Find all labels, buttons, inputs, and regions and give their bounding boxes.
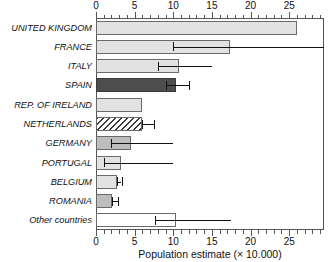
category-label: SPAIN xyxy=(0,80,92,90)
error-bar-cap xyxy=(173,42,174,51)
category-label: PORTUGAL xyxy=(0,158,92,168)
x-tick-label: 5 xyxy=(132,236,138,248)
x-tick-label: 20 xyxy=(245,236,256,248)
x-tick-minor xyxy=(142,230,143,234)
error-bar-line xyxy=(155,220,232,221)
x-tick-label: 5 xyxy=(132,0,138,12)
category-label: Other countries xyxy=(0,215,92,225)
bar xyxy=(96,117,142,131)
error-bar-line xyxy=(173,47,324,48)
x-tick-label: 25 xyxy=(284,236,295,248)
error-bar-cap xyxy=(142,120,143,129)
category-axis-labels: UNITED KINGDOMFRANCEITALYSPAINREP. OF IR… xyxy=(0,0,92,262)
x-tick-minor xyxy=(220,230,221,234)
x-tick-minor xyxy=(281,230,282,234)
error-bar-cap xyxy=(189,81,190,90)
x-tick-minor xyxy=(196,230,197,234)
category-label: FRANCE xyxy=(0,42,92,52)
x-tick-minor xyxy=(258,230,259,234)
x-axis-bottom-tick-labels: 0510152025 xyxy=(96,236,324,248)
error-bar-cap xyxy=(122,177,123,186)
x-tick-minor xyxy=(204,230,205,234)
x-tick-minor xyxy=(158,230,159,234)
error-bar-line xyxy=(142,124,154,125)
x-tick-label: 25 xyxy=(284,0,295,12)
population-bar-chart: 0510152025 UNITED KINGDOMFRANCEITALYSPAI… xyxy=(0,0,332,262)
x-tick-label: 10 xyxy=(168,236,179,248)
x-tick-minor xyxy=(305,230,306,234)
x-tick-minor xyxy=(181,230,182,234)
bar xyxy=(96,78,176,92)
category-label: UNITED KINGDOM xyxy=(0,23,92,33)
error-bar-cap xyxy=(154,120,155,129)
category-label: GERMANY xyxy=(0,138,92,148)
x-tick-minor xyxy=(235,230,236,234)
x-tick-label: 10 xyxy=(168,0,179,12)
x-tick-label: 0 xyxy=(93,0,99,12)
bar xyxy=(96,194,112,208)
error-bar-cap xyxy=(155,216,156,225)
error-bar-line xyxy=(166,85,189,86)
x-axis-title: Population estimate (× 10.000) xyxy=(96,248,324,260)
x-tick-minor xyxy=(189,230,190,234)
x-tick-minor xyxy=(150,230,151,234)
x-tick-label: 15 xyxy=(206,236,217,248)
category-label: BELGIUM xyxy=(0,177,92,187)
x-tick-minor xyxy=(243,230,244,234)
x-tick-minor xyxy=(227,230,228,234)
category-label: NETHERLANDS xyxy=(0,119,92,129)
error-bar-cap xyxy=(104,158,105,167)
x-tick-minor xyxy=(119,230,120,234)
bars-layer xyxy=(96,18,324,230)
category-label: ITALY xyxy=(0,61,92,71)
x-tick-minor xyxy=(274,230,275,234)
x-tick-minor xyxy=(111,230,112,234)
error-bar-cap xyxy=(117,177,118,186)
x-tick-minor xyxy=(166,230,167,234)
bar xyxy=(96,98,142,112)
error-bar-line xyxy=(111,143,173,144)
error-bar-line xyxy=(104,163,174,164)
x-tick-label: 20 xyxy=(245,0,256,12)
bar xyxy=(96,21,297,35)
x-tick-minor xyxy=(297,230,298,234)
x-tick-minor xyxy=(320,230,321,234)
error-bar-cap xyxy=(111,139,112,148)
category-label: REP. OF IRELAND xyxy=(0,100,92,110)
x-tick-minor xyxy=(266,230,267,234)
bar xyxy=(96,175,117,189)
error-bar-cap xyxy=(158,62,159,71)
error-bar-cap xyxy=(166,81,167,90)
x-tick-minor xyxy=(312,230,313,234)
x-tick-label: 0 xyxy=(93,236,99,248)
category-label: ROMANIA xyxy=(0,196,92,206)
x-tick-label: 15 xyxy=(206,0,217,12)
error-bar-line xyxy=(158,66,212,67)
error-bar-cap xyxy=(112,197,113,206)
x-axis-top-tick-labels: 0510152025 xyxy=(96,0,324,12)
error-bar-cap xyxy=(118,197,119,206)
x-tick-minor xyxy=(104,230,105,234)
x-tick-minor xyxy=(127,230,128,234)
